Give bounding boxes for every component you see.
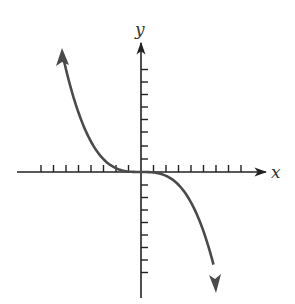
cubic-curve <box>62 53 213 264</box>
x-axis-label: x <box>271 162 281 182</box>
curve-arrow-up-icon <box>56 48 69 66</box>
y-axis-label: y <box>134 19 145 39</box>
curve-arrow-down-icon <box>209 274 221 293</box>
cubic-graph: y x <box>0 0 295 304</box>
